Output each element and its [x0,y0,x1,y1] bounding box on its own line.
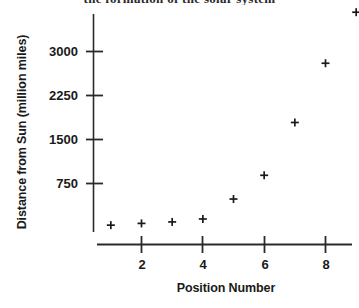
data-point-markers [107,8,359,229]
y-axis-ticks [86,52,103,184]
data-point-marker-9 [352,8,359,16]
data-point-marker-6 [260,171,268,179]
x-tick-label-4: 4 [188,257,218,272]
x-tick-label-2: 2 [127,257,157,272]
data-point-marker-4 [199,215,207,223]
y-tick-label-750: 750 [26,176,78,191]
y-tick-label-1500: 1500 [26,132,78,147]
data-point-marker-5 [230,195,238,203]
data-point-marker-3 [168,218,176,226]
scatter-chart-figure: 3000 2250 1500 750 2 4 6 8 Distance from… [0,0,359,308]
x-tick-label-6: 6 [250,257,280,272]
x-axis-title: Position Number [93,281,359,295]
data-point-marker-8 [322,59,330,67]
y-axis-title: Distance from Sun (million miles) [15,27,33,237]
y-tick-label-2250: 2250 [26,88,78,103]
x-tick-label-8: 8 [311,257,341,272]
data-point-marker-1 [107,221,115,229]
data-point-marker-7 [291,118,299,126]
data-point-marker-2 [138,219,146,227]
y-tick-label-3000: 3000 [26,44,78,59]
